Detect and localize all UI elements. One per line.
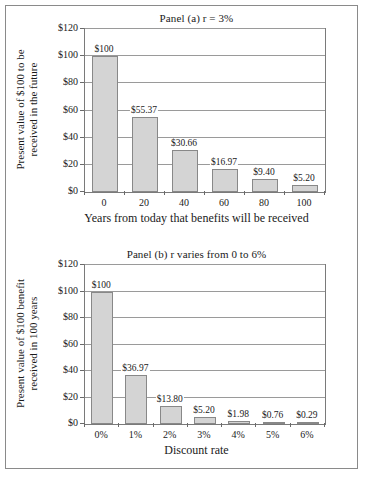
bar-value-label: $100 [94, 44, 115, 54]
bar [91, 292, 113, 425]
bar [263, 422, 285, 424]
x-axis-tick-mark [84, 423, 85, 427]
panel-a-plot-area [84, 28, 326, 193]
bar-value-label: $1.98 [227, 409, 250, 419]
bar-value-label: $36.97 [121, 363, 149, 373]
chart-panel-a: Panel (a) r = 3% Present value of $100 t… [6, 6, 357, 238]
y-axis-tick-label: $100 [38, 286, 78, 296]
x-axis-tick-mark [284, 191, 285, 195]
x-axis-tick-mark [204, 191, 205, 195]
y-axis-tick-label: $20 [38, 159, 78, 169]
bar [212, 169, 238, 192]
x-axis-tick-label: 100 [297, 197, 312, 208]
y-axis-tick-label: $40 [38, 132, 78, 142]
bar-value-label: $9.40 [252, 167, 275, 177]
y-axis-tick-mark [80, 317, 84, 318]
y-axis-tick-mark [80, 344, 84, 345]
gridline [85, 55, 325, 56]
y-axis-tick-mark [80, 397, 84, 398]
x-axis-tick-mark [290, 423, 291, 427]
x-axis-tick-mark [124, 191, 125, 195]
bar-value-label: $55.37 [130, 105, 158, 115]
y-axis-tick-label: $120 [38, 23, 78, 33]
gridline [85, 110, 325, 111]
x-axis-tick-mark [187, 423, 188, 427]
x-axis-tick-mark [118, 423, 119, 427]
x-axis-tick-label: 0 [102, 197, 107, 208]
gridline [85, 317, 325, 318]
panel-a-y-axis-title-line1: Present value of $100 to be [14, 28, 27, 191]
x-axis-tick-mark [244, 191, 245, 195]
x-axis-tick-label: 0% [94, 429, 107, 440]
panel-b-y-axis-title-line1: Present value of $100 benefit [14, 264, 27, 423]
y-axis-tick-mark [80, 264, 84, 265]
y-axis-tick-label: $20 [38, 392, 78, 402]
gridline [85, 397, 325, 398]
y-axis-tick-label: $0 [38, 186, 78, 196]
bar [132, 117, 158, 192]
x-axis-tick-label: 60 [219, 197, 229, 208]
gridline [85, 82, 325, 83]
y-axis-tick-mark [80, 370, 84, 371]
bar [252, 179, 278, 192]
x-axis-tick-label: 6% [300, 429, 313, 440]
chart-panel-b: Panel (b) r varies from 0 to 6% Present … [6, 244, 357, 468]
x-axis-tick-label: 1% [129, 429, 142, 440]
y-axis-tick-label: $100 [38, 50, 78, 60]
x-axis-tick-label: 40 [179, 197, 189, 208]
bar-value-label: $0.29 [295, 410, 318, 420]
bar-value-label: $13.80 [156, 394, 184, 404]
x-axis-tick-label: 5% [266, 429, 279, 440]
y-axis-tick-label: $80 [38, 312, 78, 322]
bar [172, 150, 198, 192]
gridline [85, 344, 325, 345]
y-axis-tick-mark [80, 28, 84, 29]
bar [297, 422, 319, 424]
y-axis-tick-label: $120 [38, 259, 78, 269]
x-axis-tick-label: 20 [139, 197, 149, 208]
x-axis-tick-label: 3% [197, 429, 210, 440]
gridline [85, 137, 325, 138]
x-axis-tick-mark [324, 423, 325, 427]
bar-value-label: $5.20 [192, 405, 215, 415]
x-axis-tick-mark [153, 423, 154, 427]
bar-value-label: $0.76 [261, 410, 284, 420]
bar-value-label: $5.20 [292, 173, 315, 183]
bar [194, 417, 216, 424]
y-axis-tick-mark [80, 137, 84, 138]
x-axis-tick-label: 4% [232, 429, 245, 440]
y-axis-tick-mark [80, 291, 84, 292]
y-axis-tick-label: $60 [38, 339, 78, 349]
x-axis-tick-mark [84, 191, 85, 195]
panel-b-y-axis-title: Present value of $100 benefit received i… [14, 264, 40, 423]
x-axis-tick-mark [221, 423, 222, 427]
y-axis-tick-mark [80, 82, 84, 83]
panel-a-x-axis-title: Years from today that benefits will be r… [6, 211, 357, 225]
bar-value-label: $100 [91, 280, 112, 290]
y-axis-tick-label: $40 [38, 365, 78, 375]
bar [92, 56, 118, 192]
panel-a-y-axis-title: Present value of $100 to be received in … [14, 28, 40, 191]
gridline [85, 291, 325, 292]
figure-frame: Panel (a) r = 3% Present value of $100 t… [5, 5, 358, 469]
bar-value-label: $16.97 [210, 157, 238, 167]
gridline [85, 28, 325, 29]
x-axis-tick-label: 2% [163, 429, 176, 440]
x-axis-tick-mark [255, 423, 256, 427]
x-axis-tick-mark [324, 191, 325, 195]
bar [292, 185, 318, 192]
bar [160, 406, 182, 424]
bar-value-label: $30.66 [170, 138, 198, 148]
panel-b-x-axis-title: Discount rate [6, 443, 357, 457]
bar [125, 375, 147, 424]
y-axis-tick-mark [80, 110, 84, 111]
y-axis-tick-mark [80, 164, 84, 165]
y-axis-tick-mark [80, 55, 84, 56]
y-axis-tick-label: $60 [38, 105, 78, 115]
y-axis-tick-label: $0 [38, 418, 78, 428]
gridline [85, 264, 325, 265]
panel-b-plot-area [84, 264, 326, 425]
y-axis-tick-label: $80 [38, 77, 78, 87]
x-axis-tick-mark [164, 191, 165, 195]
bar [228, 421, 250, 424]
